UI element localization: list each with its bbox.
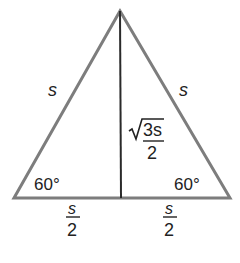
left-angle-label: 60°	[34, 175, 60, 194]
right-side-label: s	[179, 80, 188, 100]
right-angle-label: 60°	[174, 175, 200, 194]
altitude-denominator: 2	[147, 143, 157, 163]
equilateral-triangle-diagram: s s 3s 2 60° 60° s 2 s 2	[0, 0, 240, 263]
left-half-denominator: 2	[67, 220, 77, 240]
right-half-numerator: s	[165, 200, 173, 217]
altitude-line	[120, 11, 121, 198]
triangle-outline	[14, 11, 230, 198]
left-half-base-label: s 2	[66, 200, 80, 240]
left-half-numerator: s	[68, 200, 76, 217]
right-half-denominator: 2	[164, 220, 174, 240]
left-side-label: s	[48, 80, 57, 100]
right-half-base-label: s 2	[163, 200, 177, 240]
altitude-label: 3s 2	[129, 119, 164, 163]
altitude-numerator: 3s	[143, 120, 162, 140]
diagram-canvas: s s 3s 2 60° 60° s 2 s 2	[0, 0, 240, 263]
